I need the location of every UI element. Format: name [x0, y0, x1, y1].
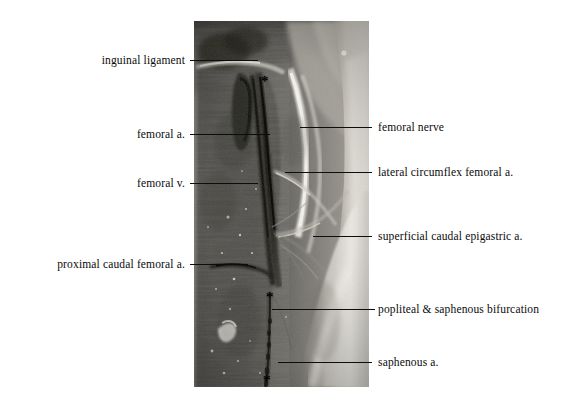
dissection-photograph — [194, 21, 369, 387]
anatomical-figure: * * * inguinal ligament femoral a. femor… — [0, 0, 583, 408]
label-popliteal-and-saphenous-bifurcation: popliteal & saphenous bifurcation — [378, 304, 539, 316]
leader-line-lateral-circumflex-femoral-artery — [285, 172, 372, 173]
leader-line-popliteal-and-saphenous-bifurcation — [272, 309, 375, 310]
label-proximal-caudal-femoral-artery: proximal caudal femoral a. — [57, 259, 185, 271]
label-inguinal-ligament: inguinal ligament — [102, 55, 185, 67]
leader-line-femoral-nerve — [300, 127, 372, 128]
label-femoral-artery: femoral a. — [137, 129, 185, 141]
label-femoral-nerve: femoral nerve — [378, 122, 444, 134]
photograph-canvas — [194, 21, 369, 387]
asterisk-marker-bifurcation: * — [266, 290, 274, 305]
label-saphenous-artery: saphenous a. — [378, 357, 439, 369]
leader-line-superficial-caudal-epigastric-artery — [313, 236, 372, 237]
leader-line-inguinal-ligament — [190, 60, 258, 61]
asterisk-marker-proximal: * — [261, 74, 269, 89]
label-femoral-vein: femoral v. — [137, 178, 185, 190]
label-superficial-caudal-epigastric-artery: superficial caudal epigastric a. — [378, 231, 523, 243]
leader-line-femoral-vein — [190, 183, 258, 184]
leader-line-proximal-caudal-femoral-artery — [190, 264, 248, 265]
leader-line-saphenous-artery — [278, 362, 372, 363]
leader-line-femoral-artery — [190, 134, 270, 135]
label-lateral-circumflex-femoral-artery: lateral circumflex femoral a. — [378, 167, 513, 179]
asterisk-marker-distal: * — [263, 373, 271, 388]
